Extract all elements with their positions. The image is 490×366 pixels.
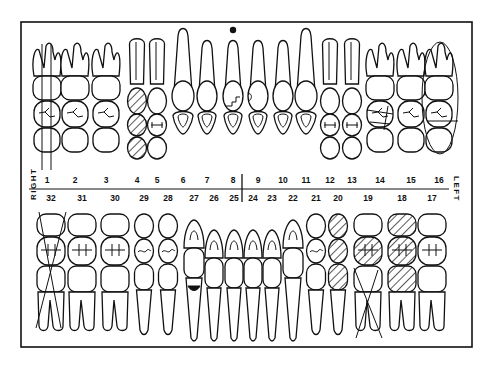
tooth-6[interactable] bbox=[172, 29, 194, 135]
tooth-32[interactable] bbox=[36, 212, 66, 331]
tooth-8[interactable] bbox=[223, 27, 243, 134]
tooth-18[interactable] bbox=[388, 214, 416, 331]
tooth-number-18: 18 bbox=[397, 193, 407, 203]
tooth-number-8: 8 bbox=[231, 175, 236, 185]
tooth-10[interactable] bbox=[273, 41, 293, 135]
tooth-28[interactable] bbox=[159, 214, 178, 335]
tooth-number-24: 24 bbox=[248, 193, 258, 203]
tooth-number-22: 22 bbox=[288, 193, 298, 203]
tooth-number-21: 21 bbox=[311, 193, 321, 203]
tooth-21[interactable] bbox=[307, 214, 326, 335]
upper-arch bbox=[33, 27, 458, 170]
tooth-number-1: 1 bbox=[45, 175, 50, 185]
tooth-15[interactable] bbox=[397, 43, 425, 152]
tooth-number-4: 4 bbox=[135, 175, 140, 185]
tooth-27[interactable] bbox=[184, 220, 204, 341]
tooth-number-15: 15 bbox=[406, 175, 416, 185]
tooth-number-7: 7 bbox=[205, 175, 210, 185]
tooth-number-19: 19 bbox=[363, 193, 373, 203]
tooth-30[interactable] bbox=[101, 214, 129, 331]
tooth-29[interactable] bbox=[135, 214, 154, 335]
tooth-number-28: 28 bbox=[163, 193, 173, 203]
tooth-number-6: 6 bbox=[181, 175, 186, 185]
tooth-number-5: 5 bbox=[155, 175, 160, 185]
tooth-22[interactable] bbox=[283, 220, 303, 341]
tooth-number-11: 11 bbox=[302, 175, 311, 185]
right-label: RIGHT bbox=[29, 168, 38, 200]
tooth-4[interactable] bbox=[128, 39, 147, 159]
tooth-7[interactable] bbox=[197, 41, 217, 135]
dental-chart: RIGHT LEFT 12345678910111213141516 32313… bbox=[0, 0, 490, 366]
tooth-13[interactable] bbox=[343, 39, 362, 159]
tooth-number-16: 16 bbox=[434, 175, 444, 185]
tooth-number-2: 2 bbox=[73, 175, 78, 185]
tooth-2[interactable] bbox=[61, 43, 89, 152]
tooth-number-3: 3 bbox=[104, 175, 109, 185]
tooth-number-12: 12 bbox=[325, 175, 335, 185]
tooth-19[interactable] bbox=[354, 214, 382, 338]
lower-arch bbox=[36, 212, 446, 341]
upper-tooth-numbers: 12345678910111213141516 bbox=[45, 175, 444, 185]
apical-lesion-dot bbox=[230, 27, 236, 33]
tooth-12[interactable] bbox=[321, 39, 340, 159]
tooth-23[interactable] bbox=[263, 230, 281, 341]
tooth-3[interactable] bbox=[92, 43, 120, 152]
tooth-16[interactable] bbox=[422, 42, 458, 154]
tooth-number-29: 29 bbox=[139, 193, 149, 203]
tooth-number-23: 23 bbox=[267, 193, 277, 203]
tooth-number-13: 13 bbox=[347, 175, 357, 185]
tooth-number-14: 14 bbox=[375, 175, 385, 185]
tooth-31[interactable] bbox=[68, 214, 96, 331]
tooth-14[interactable] bbox=[366, 43, 394, 152]
left-label: LEFT bbox=[452, 176, 461, 202]
tooth-number-30: 30 bbox=[110, 193, 120, 203]
tooth-9[interactable] bbox=[248, 41, 268, 135]
tooth-11[interactable] bbox=[295, 29, 317, 135]
tooth-number-25: 25 bbox=[229, 193, 239, 203]
tooth-number-17: 17 bbox=[427, 193, 437, 203]
tooth-17[interactable] bbox=[418, 214, 446, 331]
tooth-number-27: 27 bbox=[189, 193, 199, 203]
tooth-5[interactable] bbox=[148, 39, 167, 159]
tooth-1[interactable] bbox=[33, 43, 61, 170]
tooth-number-32: 32 bbox=[46, 193, 56, 203]
tooth-20[interactable] bbox=[329, 214, 348, 335]
tooth-25[interactable] bbox=[225, 230, 243, 341]
tooth-number-31: 31 bbox=[77, 193, 87, 203]
tooth-number-9: 9 bbox=[256, 175, 261, 185]
tooth-number-10: 10 bbox=[278, 175, 288, 185]
tooth-number-20: 20 bbox=[333, 193, 343, 203]
tooth-26[interactable] bbox=[205, 230, 223, 341]
tooth-number-26: 26 bbox=[209, 193, 219, 203]
tooth-24[interactable] bbox=[244, 230, 262, 341]
